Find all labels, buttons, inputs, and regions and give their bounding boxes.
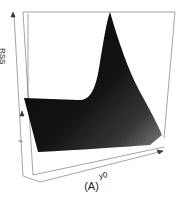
x-axis-label: y0 [98,171,108,181]
figure-caption: (A) [0,181,183,192]
surface-plot [0,0,183,203]
rss-surface [24,12,162,152]
r-axis-label: r [17,140,24,142]
z-axis-label: RSS [0,48,6,64]
